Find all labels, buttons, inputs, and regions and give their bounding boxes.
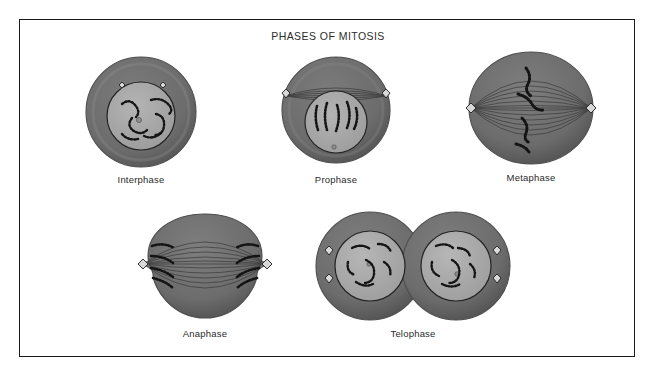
prophase-diagram [251,52,421,172]
centriole-icon [262,259,272,269]
nucleolus [332,145,336,149]
phase-interphase: Interphase [56,52,226,192]
anaphase-diagram [110,208,300,328]
phase-label-telophase: Telophase [308,328,518,339]
phase-metaphase: Metaphase [442,48,620,192]
phase-label-prophase: Prophase [251,174,421,185]
nucleolus [136,117,141,122]
telophase-diagram [308,206,518,328]
metaphase-diagram [442,48,620,172]
phase-telophase: Telophase [308,206,518,350]
centriole-icon [138,259,148,269]
figure-canvas: PHASES OF MITOSIS [0,0,656,377]
phase-label-metaphase: Metaphase [442,172,620,183]
phase-label-anaphase: Anaphase [110,328,300,339]
nuclear-envelope [107,82,175,150]
phase-anaphase: Anaphase [110,208,300,350]
interphase-diagram [56,52,226,172]
phase-prophase: Prophase [251,52,421,192]
figure-title: PHASES OF MITOSIS [0,30,656,42]
phase-label-interphase: Interphase [56,174,226,185]
